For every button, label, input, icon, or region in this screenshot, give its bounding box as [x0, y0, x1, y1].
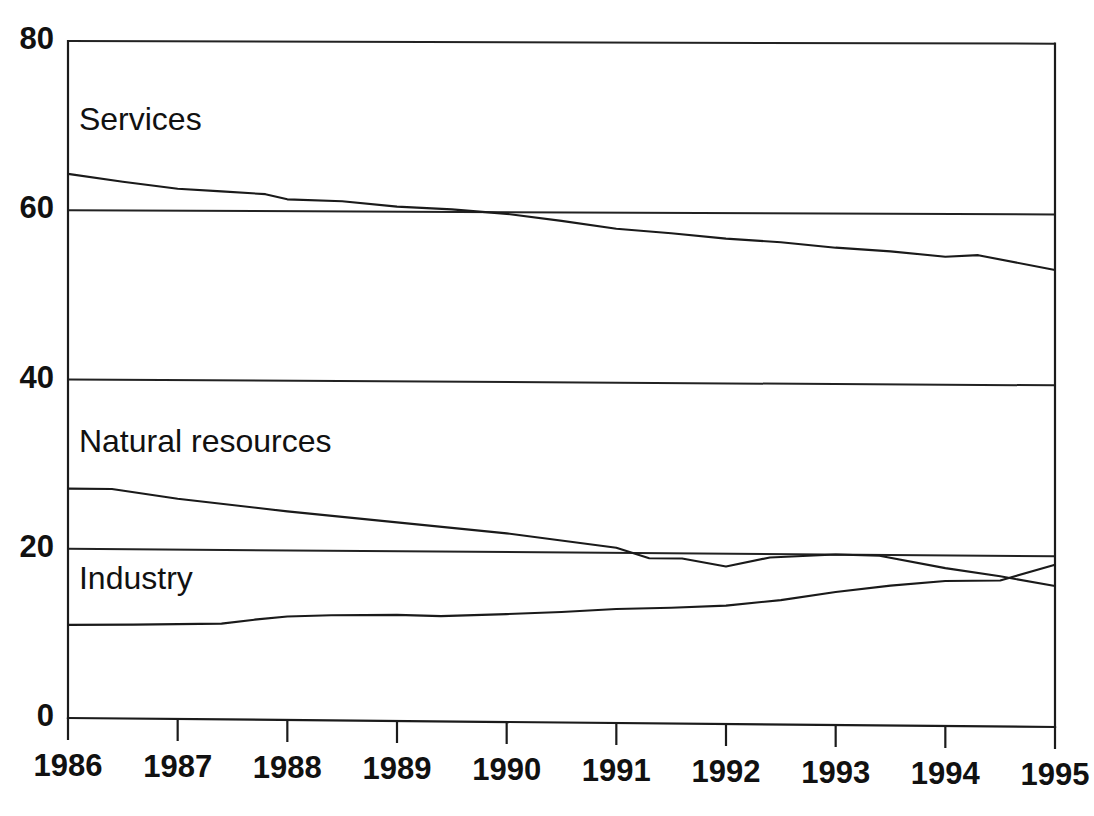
gridline-80 — [68, 41, 1055, 44]
x-tick-label-1995: 1995 — [1021, 757, 1090, 792]
series-label-natural-resources: Natural resources — [79, 423, 332, 459]
series-label-industry: Industry — [79, 560, 193, 596]
gridline-20 — [68, 549, 1055, 556]
x-axis-spine — [68, 718, 1055, 727]
x-tick-label-1990: 1990 — [472, 752, 541, 787]
x-tick-label-1992: 1992 — [692, 754, 761, 789]
y-tick-label-0: 0 — [37, 698, 54, 733]
y-tick-label-60: 60 — [20, 190, 54, 225]
y-tick-label-40: 40 — [20, 360, 54, 395]
series-line-industry — [68, 565, 1055, 625]
series-line-natural-resources — [68, 489, 1055, 586]
series-lines — [68, 174, 1055, 625]
x-tick-labels: 1986198719881989199019911992199319941995 — [34, 748, 1090, 792]
gridlines — [68, 41, 1055, 556]
y-tick-label-20: 20 — [20, 529, 54, 564]
x-tick-label-1986: 1986 — [34, 748, 103, 783]
x-tick-label-1989: 1989 — [363, 751, 432, 786]
y-tick-labels: 020406080 — [20, 21, 54, 733]
line-chart: 020406080 198619871988198919901991199219… — [0, 0, 1094, 816]
series-label-services: Services — [79, 101, 202, 137]
x-tick-label-1987: 1987 — [143, 749, 212, 784]
series-line-services — [68, 174, 1055, 270]
x-tick-label-1994: 1994 — [911, 756, 981, 791]
chart-figure: 020406080 198619871988198919901991199219… — [0, 0, 1094, 816]
x-tick-label-1993: 1993 — [801, 755, 870, 790]
series-annotations: ServicesNatural resourcesIndustry — [79, 101, 332, 597]
y-tick-label-80: 80 — [20, 21, 54, 56]
x-tick-label-1991: 1991 — [582, 753, 651, 788]
x-tick-label-1988: 1988 — [253, 750, 322, 785]
gridline-40 — [68, 380, 1055, 386]
gridline-60 — [68, 210, 1055, 214]
